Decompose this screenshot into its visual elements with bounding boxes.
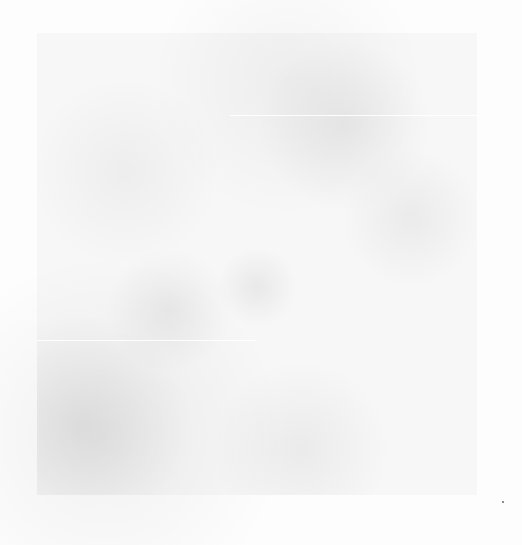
horizontal-seam (230, 115, 477, 116)
texture-canvas (0, 0, 522, 545)
dark-speck (502, 501, 504, 503)
horizontal-seam (37, 340, 257, 341)
noise-square-region (37, 33, 477, 495)
